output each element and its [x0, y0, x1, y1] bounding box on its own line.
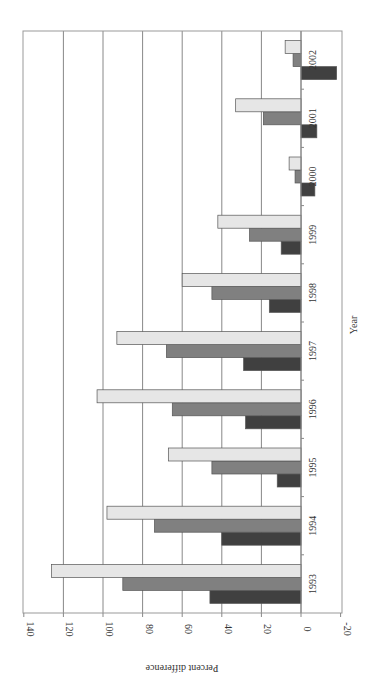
category-label: 1995	[307, 458, 318, 478]
bars	[52, 41, 337, 604]
bar	[218, 215, 301, 228]
bar	[210, 590, 301, 603]
category-label: 2002	[307, 50, 318, 70]
value-tick-label: 20	[262, 624, 273, 634]
bar	[269, 299, 301, 312]
bar	[212, 461, 301, 474]
bar	[236, 99, 301, 112]
bar	[168, 448, 301, 461]
category-axis-title: Year	[348, 315, 359, 334]
bar	[281, 241, 301, 254]
bar	[293, 54, 301, 67]
value-tick-label: -20	[342, 622, 353, 635]
bar	[117, 332, 301, 345]
bar	[285, 41, 301, 54]
value-axis-ticks: 140120100806040200-20	[24, 613, 353, 637]
bar	[182, 273, 301, 286]
bar	[154, 519, 301, 532]
bar	[244, 358, 301, 371]
value-tick-label: 140	[25, 622, 36, 637]
category-axis-labels: 1993199419951996199719981999200020012002	[301, 31, 318, 613]
value-tick-label: 100	[104, 622, 115, 637]
bar	[123, 577, 301, 590]
value-tick-label: 120	[64, 622, 75, 637]
bar	[246, 416, 301, 429]
bar	[263, 112, 301, 125]
value-tick-label: 80	[144, 624, 155, 634]
bar-chart: 140120100806040200-20 199319941995199619…	[0, 0, 370, 696]
category-label: 2000	[307, 167, 318, 187]
bar	[277, 474, 301, 487]
bar	[107, 506, 301, 519]
bar	[52, 564, 301, 577]
bar	[172, 403, 301, 416]
bar	[212, 286, 301, 299]
bar	[295, 170, 301, 183]
value-tick-label: 0	[302, 627, 313, 632]
category-label: 1996	[307, 399, 318, 419]
category-label: 1998	[307, 283, 318, 303]
category-label: 2001	[307, 108, 318, 128]
value-axis-title: Percent difference	[145, 663, 218, 674]
category-label: 1994	[307, 516, 318, 536]
category-label: 1999	[307, 225, 318, 245]
value-tick-label: 40	[223, 624, 234, 634]
bar	[289, 157, 301, 170]
category-label: 1997	[307, 341, 318, 361]
bar	[222, 532, 301, 545]
bar	[166, 345, 301, 358]
value-tick-label: 60	[183, 624, 194, 634]
bar	[250, 228, 301, 241]
category-label: 1993	[307, 574, 318, 594]
bar	[97, 390, 301, 403]
